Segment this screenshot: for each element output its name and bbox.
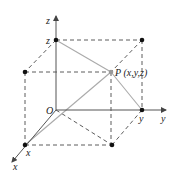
x-axis xyxy=(12,110,56,162)
origin-label: O xyxy=(46,105,53,116)
z-point-label: z xyxy=(45,35,50,46)
point-p xyxy=(109,70,114,75)
corner-top-right xyxy=(140,38,145,43)
y-point-label: y xyxy=(138,113,144,124)
solid-projection-lines xyxy=(25,40,142,145)
corner-bottom-right xyxy=(110,143,115,148)
corner-left xyxy=(23,70,28,75)
x-axis-label: x xyxy=(12,161,18,172)
x-point-label: x xyxy=(25,147,31,158)
z-point xyxy=(54,38,59,43)
z-axis-label: z xyxy=(45,15,50,26)
y-point xyxy=(140,108,145,113)
coordinate-diagram: z z P (x,y,z) O y y x x xyxy=(0,0,177,176)
point-p-label: P (x,y,z) xyxy=(114,67,148,79)
y-axis-label: y xyxy=(160,113,166,124)
